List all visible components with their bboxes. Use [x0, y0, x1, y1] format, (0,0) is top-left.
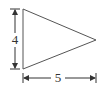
height-dimension: 4: [10, 9, 20, 69]
triangle-shape: [23, 9, 96, 69]
triangle-diagram: 4 5: [0, 0, 100, 85]
height-label: 4: [12, 32, 19, 47]
base-dimension: 5: [23, 70, 96, 85]
base-label: 5: [55, 70, 62, 85]
